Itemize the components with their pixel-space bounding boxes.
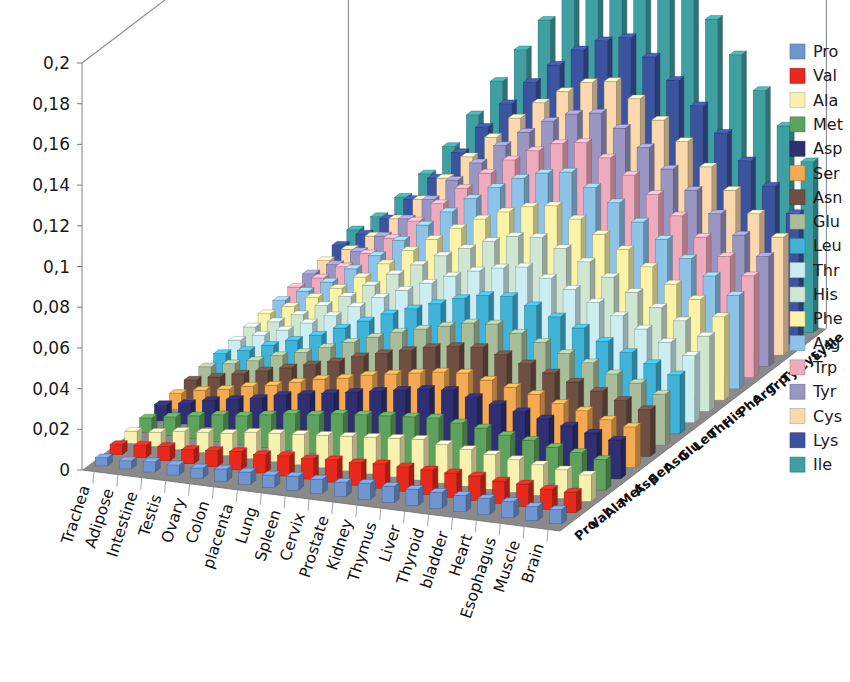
bar (230, 448, 247, 470)
legend-swatch (790, 166, 805, 181)
legend-label: Pro (813, 42, 838, 61)
legend-swatch (790, 336, 805, 351)
legend-item[interactable]: Leu (790, 236, 842, 255)
bar (406, 485, 423, 505)
y-axis-tick-label: 0,06 (32, 338, 70, 358)
bar (638, 406, 655, 457)
bar (668, 371, 685, 434)
legend-item[interactable]: Ala (790, 91, 838, 110)
legend-item[interactable]: Tyr (790, 382, 837, 401)
legend-swatch (790, 238, 805, 253)
chart-container: 00,020,040,060,080,10,120,140,160,180,2 … (0, 0, 850, 682)
bar (191, 464, 208, 478)
legend-item[interactable]: Cys (790, 407, 842, 426)
y-axis-tick-label: 0,02 (32, 419, 70, 439)
legend-label: Leu (813, 236, 842, 255)
y-axis-tick-label: 0,2 (43, 53, 70, 73)
bar (478, 495, 495, 515)
legend-item[interactable]: Lys (790, 431, 838, 450)
legend-swatch (790, 457, 805, 472)
legend-swatch (790, 190, 805, 205)
legend-item[interactable]: Met (790, 115, 843, 134)
bar (609, 436, 626, 478)
y-axis-tick-label: 0,16 (32, 134, 70, 154)
legend-swatch (790, 384, 805, 399)
bar (712, 313, 729, 400)
legend-label: Thr (812, 261, 840, 280)
legend-swatch (790, 141, 805, 156)
legend-item[interactable]: Val (790, 66, 837, 85)
y-axis-tick-label: 0,12 (32, 216, 70, 236)
bar (683, 352, 700, 423)
y-axis-tick-label: 0,18 (32, 94, 70, 114)
bar (771, 233, 788, 355)
legend-item[interactable]: Glu (790, 212, 840, 231)
bar (334, 478, 351, 496)
bar (579, 471, 596, 501)
three-d-bar-chart: 00,020,040,060,080,10,120,140,160,180,2 … (0, 0, 850, 682)
bar (502, 498, 519, 518)
legend-item[interactable]: Ser (790, 164, 840, 183)
bar (253, 451, 270, 473)
y-axis-tick-label: 0,04 (32, 379, 70, 399)
bar (549, 506, 566, 524)
y-axis-tick-label: 0,08 (32, 297, 70, 317)
legend-item[interactable]: Thr (790, 261, 840, 280)
bar (382, 482, 399, 502)
legend-swatch (790, 263, 805, 278)
bar (564, 488, 581, 512)
legend-item[interactable]: Ile (790, 455, 832, 474)
bar (239, 468, 256, 484)
bar (110, 441, 127, 455)
bar (727, 291, 744, 388)
bar (125, 427, 142, 443)
legend-item[interactable]: Asn (790, 188, 842, 207)
bar (454, 492, 471, 512)
bar (430, 489, 447, 509)
legend-label: Val (813, 66, 837, 85)
bar (119, 457, 136, 469)
legend-label: Ser (813, 164, 840, 183)
y-axis-tick-label: 0,14 (32, 175, 70, 195)
legend-label: Glu (813, 212, 840, 231)
legend-label: Asp (813, 139, 842, 158)
bar (134, 442, 151, 458)
legend-label: Trp (812, 358, 837, 377)
legend-label: Phe (813, 309, 843, 328)
bar (594, 456, 611, 490)
legend-label: Met (813, 115, 843, 134)
legend-item[interactable]: His (790, 285, 838, 304)
legend-label: Lys (813, 431, 838, 450)
bar (215, 465, 232, 481)
y-axis-tick-label: 0,1 (43, 257, 70, 277)
legend-item[interactable]: Pro (790, 42, 838, 61)
y-axis-labels: 00,020,040,060,080,10,120,140,160,180,2 (32, 53, 82, 480)
legend-label: Cys (813, 407, 842, 426)
legend-label: Tyr (812, 382, 837, 401)
legend-item[interactable]: Phe (790, 309, 843, 328)
bar (263, 471, 280, 487)
bar (95, 454, 112, 466)
legend-label: Ile (813, 455, 832, 474)
legend-swatch (790, 44, 805, 59)
bar (143, 458, 160, 472)
legend-swatch (790, 409, 805, 424)
bar (525, 503, 542, 521)
legend-swatch (790, 68, 805, 83)
y-axis-tick-label: 0 (59, 460, 70, 480)
bar (358, 479, 375, 499)
legend-swatch (790, 433, 805, 448)
legend-swatch (790, 117, 805, 132)
legend-swatch (790, 287, 805, 302)
legend-label: Arg (813, 334, 840, 353)
legend-item[interactable]: Asp (790, 139, 842, 158)
legend-label: His (813, 285, 838, 304)
bar (623, 423, 640, 467)
legend-swatch (790, 360, 805, 375)
bar (167, 461, 184, 475)
legend-item[interactable]: Arg (790, 334, 840, 353)
legend-item[interactable]: Trp (790, 358, 837, 377)
legend-swatch (790, 93, 805, 108)
bar (206, 447, 223, 467)
legend-label: Ala (813, 91, 838, 110)
